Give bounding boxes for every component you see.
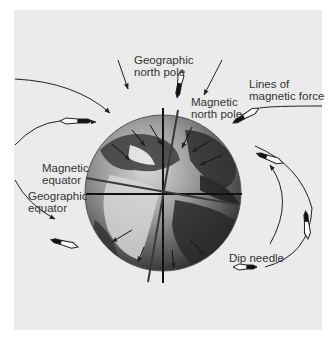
label-magnetic-north-pole: Magnetic north pole [191, 96, 242, 120]
label-lines-of-magnetic-force: Lines of magnetic force [249, 78, 324, 102]
label-geographic-equator: Geographic equator [28, 190, 87, 214]
label-geographic-north-pole: Geographic north pole [134, 54, 193, 78]
label-dip-needle: Dip needle [229, 252, 284, 264]
label-magnetic-equator: Magnetic equator [42, 162, 89, 186]
